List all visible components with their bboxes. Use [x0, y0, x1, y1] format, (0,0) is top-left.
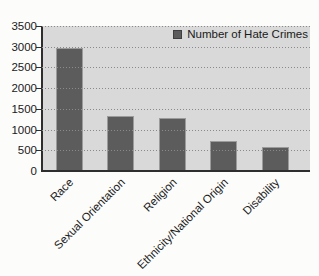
hate-crimes-bar-chart: 0500100015002000250030003500RaceSexual O…	[0, 0, 319, 276]
x-axis-label-ethnicity-national-origin: Ethnicity/National Origin	[135, 176, 230, 271]
y-axis-label-3500: 3500	[0, 20, 37, 32]
x-axis-label-race: Race	[48, 176, 75, 203]
gridline-2500	[42, 67, 310, 68]
y-axis-label-0: 0	[0, 165, 37, 177]
y-axis-label-2500: 2500	[0, 61, 37, 73]
y-axis-label-1500: 1500	[0, 103, 37, 115]
y-axis-label-2000: 2000	[0, 82, 37, 94]
y-axis-label-1000: 1000	[0, 124, 37, 136]
legend-label: Number of Hate Crimes	[187, 28, 308, 41]
legend-swatch-icon	[173, 30, 182, 39]
gridline-3000	[42, 47, 310, 48]
y-axis-label-3000: 3000	[0, 41, 37, 53]
bar-ethnicity-national-origin	[211, 142, 236, 171]
gridline-2000	[42, 88, 310, 89]
plot-area	[42, 26, 310, 171]
x-axis-label-disability: Disability	[241, 176, 282, 217]
x-axis-line	[41, 170, 310, 172]
gridline-500	[42, 150, 310, 151]
gridline-1500	[42, 109, 310, 110]
gridline-3500	[42, 26, 310, 27]
bar-sexual-orientation	[108, 117, 133, 171]
bar-religion	[160, 119, 185, 171]
y-axis-label-500: 500	[0, 144, 37, 156]
gridline-1000	[42, 130, 310, 131]
legend: Number of Hate Crimes	[173, 28, 308, 41]
x-axis-label-religion: Religion	[141, 176, 179, 214]
